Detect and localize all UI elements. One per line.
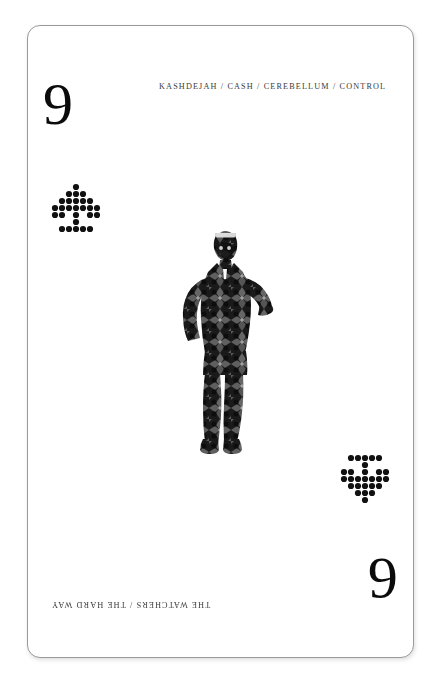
card-title-bottom: THE WATCHERS / THE HARD WAY [51,600,210,609]
rank-numeral-bottom-right: 6 [368,549,398,609]
card-stage: 9 6 KASHDEJAH / CASH / CEREBELLUM / CONT… [0,0,441,676]
patterned-standing-figure-icon [165,221,285,476]
card-title-top: KASHDEJAH / CASH / CEREBELLUM / CONTROL [159,82,386,91]
halftone-arrow-pip-icon-top-left [48,182,104,238]
halftone-arrow-pip-icon-bottom-right [337,449,393,505]
rank-numeral-top-left: 9 [43,74,73,134]
playing-card: 9 6 KASHDEJAH / CASH / CEREBELLUM / CONT… [27,25,414,658]
